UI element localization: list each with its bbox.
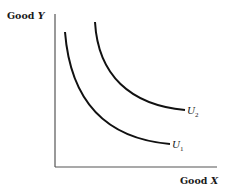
indifference-curve-u2: [95, 22, 185, 110]
curve-label-u1: U1: [172, 138, 184, 153]
curve-label-u2: U2: [187, 104, 199, 119]
indifference-map: Good Y Good X U2 U1: [0, 0, 226, 194]
x-axis-label: Good X: [180, 175, 219, 186]
y-axis-label: Good Y: [7, 10, 46, 21]
indifference-curve-u1: [65, 32, 170, 144]
